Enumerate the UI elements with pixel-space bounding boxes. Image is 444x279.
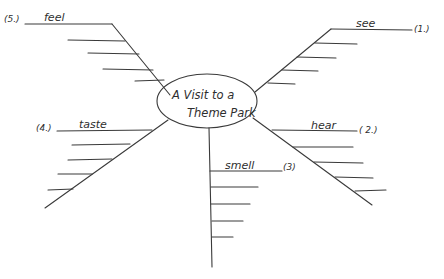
branch-feel-rib — [88, 53, 139, 54]
branch-feel-rib — [135, 80, 164, 81]
branch-taste-rib — [68, 159, 112, 160]
mind-map-diagram: (5.) feel see (1.) A Visit to a Theme Pa… — [0, 0, 444, 279]
branch-smell-spine — [209, 128, 212, 267]
branch-hear-number: ( 2.) — [359, 125, 377, 135]
branch-taste-number: (4.) — [36, 123, 52, 133]
branch-taste-rib — [72, 144, 130, 145]
branch-taste-label: taste — [79, 118, 107, 131]
branch-taste: (4.) taste — [36, 118, 168, 208]
branch-smell-label: smell — [225, 159, 254, 172]
center-title-line1: A Visit to a — [171, 88, 234, 102]
branch-feel-rib — [68, 40, 125, 41]
branch-smell-number: (3) — [283, 162, 296, 172]
branch-feel: (5.) feel — [4, 11, 170, 95]
branch-see-label: see — [356, 17, 375, 30]
branch-hear-rib — [314, 162, 363, 163]
branch-see-rib — [297, 57, 336, 58]
center-topic: A Visit to a Theme Park — [157, 74, 257, 128]
branch-taste-rib — [48, 189, 73, 190]
branch-hear-rib — [355, 190, 386, 191]
branch-see-rib — [315, 43, 357, 44]
branch-taste-spine — [45, 120, 168, 208]
branch-feel-label: feel — [44, 11, 64, 24]
branch-smell: smell (3) — [209, 128, 296, 267]
branch-see-rib — [282, 70, 318, 71]
branch-taste-headline — [57, 130, 152, 131]
branch-see-headline — [331, 29, 412, 30]
branch-hear-rib — [335, 177, 373, 178]
branch-see-spine — [255, 29, 331, 92]
center-title-line2: Theme Park — [187, 106, 257, 120]
branch-see: see (1.) — [255, 17, 430, 92]
branch-feel-rib — [103, 69, 153, 70]
branch-see-number: (1.) — [414, 24, 430, 34]
branch-feel-spine — [112, 24, 170, 95]
branch-see-rib — [268, 83, 295, 84]
branch-feel-number: (5.) — [4, 14, 20, 24]
branch-hear-headline — [272, 130, 357, 131]
branch-hear: hear ( 2.) — [253, 118, 386, 205]
